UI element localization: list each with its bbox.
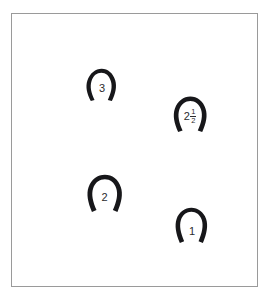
horseshoe-item: 3 — [83, 67, 119, 101]
horseshoe-item: 2 — [85, 174, 124, 212]
horseshoe-item: 2 1 2 — [171, 95, 209, 132]
horseshoe-icon — [85, 174, 124, 212]
figure-frame-border: 3 2 1 2 — [11, 13, 258, 287]
horseshoe-icon — [173, 205, 209, 245]
horseshoe-item: 1 — [173, 205, 209, 245]
horseshoe-icon — [83, 67, 119, 101]
figure-root: 3 2 1 2 — [0, 0, 271, 294]
horseshoe-icon — [171, 95, 209, 132]
